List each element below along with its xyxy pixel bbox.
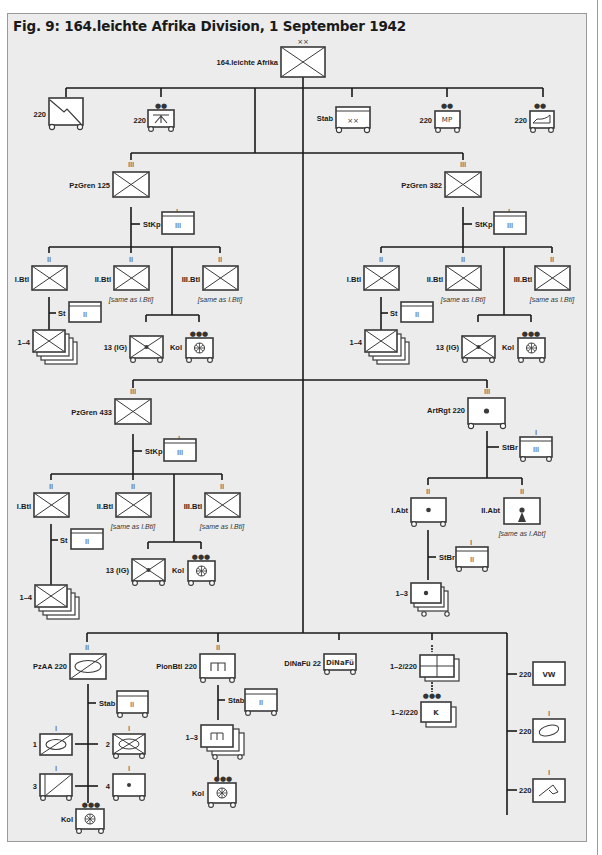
svg-text:III: III <box>175 222 181 230</box>
svg-text:PzAA 220: PzAA 220 <box>33 662 67 671</box>
pioneer-battalion: II PionBtl 220 Stab II 1–3 ●●● Kol <box>156 644 277 807</box>
svg-text:13 (IG): 13 (IG) <box>436 343 460 352</box>
svg-text:I.Abt: I.Abt <box>391 506 408 515</box>
svg-text:220: 220 <box>33 110 46 119</box>
svg-text:●●: ●● <box>155 102 167 110</box>
svg-text:III: III <box>130 388 136 396</box>
svg-text:II.Btl: II.Btl <box>427 275 443 284</box>
svg-text:StKp: StKp <box>475 220 493 229</box>
svg-text:I: I <box>548 769 550 777</box>
org-chart: ×× 164.leichte Afrika 220 ●● 220 ×× Stab… <box>0 0 602 855</box>
svg-text:PzGren 125: PzGren 125 <box>69 181 110 190</box>
svg-text:[same as I.Btl]: [same as I.Btl] <box>440 296 486 304</box>
svg-text:II: II <box>550 256 554 264</box>
svg-text:StBr: StBr <box>502 443 518 452</box>
svg-text:PionBtl 220: PionBtl 220 <box>156 662 197 671</box>
svg-text:Kol: Kol <box>502 343 514 352</box>
svg-text:II: II <box>379 256 383 264</box>
svg-text:II: II <box>85 644 89 652</box>
svg-text:4: 4 <box>106 782 111 791</box>
svg-text:[same as I.Btl]: [same as I.Btl] <box>529 296 575 304</box>
svg-text:1–4: 1–4 <box>349 338 362 347</box>
svg-text:II.Btl: II.Btl <box>97 502 113 511</box>
svg-text:●●●: ●●● <box>214 775 232 783</box>
svg-text:PzGren 433: PzGren 433 <box>71 408 112 417</box>
svg-text:1–4: 1–4 <box>17 338 30 347</box>
svg-text:●●●: ●●● <box>192 553 210 561</box>
recon-battalion: II PzAA 220 Stab II I 1 I 2 I 3 I <box>33 644 148 833</box>
svg-text:II: II <box>85 538 89 546</box>
svg-text:Stab: Stab <box>99 699 116 708</box>
cartography-platoon: ●● 220 <box>514 102 554 132</box>
svg-text:MP: MP <box>442 116 452 124</box>
svg-text:I: I <box>470 539 472 547</box>
svg-text:●●●: ●●● <box>423 692 441 700</box>
svg-text:220: 220 <box>519 727 532 736</box>
svg-text:III.Btl: III.Btl <box>182 275 200 284</box>
svg-text:II: II <box>49 483 53 491</box>
svg-text:I: I <box>128 725 130 733</box>
svg-text:StKp: StKp <box>145 447 163 456</box>
svg-text:ArtRgt 220: ArtRgt 220 <box>427 406 465 415</box>
svg-text:StKp: StKp <box>143 220 161 229</box>
svg-text:II.Abt: II.Abt <box>481 506 500 515</box>
svg-text:III: III <box>533 446 539 454</box>
svg-text:DiNaFü 22: DiNaFü 22 <box>284 659 321 668</box>
svg-text:1–4: 1–4 <box>19 593 32 602</box>
signals-commander: DiNaFü DiNaFü 22 <box>284 654 356 674</box>
supply-wheel-icon <box>527 343 537 353</box>
regiment-pzgren-125: III PzGren 125 StKp I III II I.Btl II II… <box>15 161 243 364</box>
svg-text:I.Btl: I.Btl <box>347 275 361 284</box>
svg-text:K: K <box>433 709 439 717</box>
svg-text:VW: VW <box>542 671 555 679</box>
svg-text:II: II <box>461 256 465 264</box>
svg-text:I: I <box>128 765 130 773</box>
aa-platoon: ●● 220 <box>133 102 174 131</box>
svg-text:3: 3 <box>33 782 37 791</box>
svg-text:StBr: StBr <box>439 553 455 562</box>
division-hq: ×× 164.leichte Afrika <box>217 38 325 77</box>
svg-text:I: I <box>548 710 550 718</box>
svg-text:220: 220 <box>519 670 532 679</box>
svg-text:164.leichte Afrika: 164.leichte Afrika <box>217 58 279 67</box>
svg-text:III.Btl: III.Btl <box>514 275 532 284</box>
svg-text:[same as I.Btl]: [same as I.Btl] <box>199 523 245 531</box>
svg-text:I: I <box>535 429 537 437</box>
svg-text:II: II <box>426 488 430 496</box>
svg-text:13 (IG): 13 (IG) <box>106 566 130 575</box>
svg-text:II: II <box>470 556 474 564</box>
svg-text:I.Btl: I.Btl <box>15 275 29 284</box>
svg-text:III: III <box>507 222 513 230</box>
svg-text:DiNaFü: DiNaFü <box>326 659 354 667</box>
svg-text:Kol: Kol <box>192 789 204 798</box>
svg-text:II.Btl: II.Btl <box>95 275 111 284</box>
svg-text:●●: ●● <box>534 102 546 110</box>
svg-text:1–2/220: 1–2/220 <box>391 708 418 717</box>
svg-text:●●●: ●●● <box>190 330 208 338</box>
svg-text:I: I <box>55 765 57 773</box>
svg-text:Stab: Stab <box>317 114 334 123</box>
svg-text:[same as I.Btl]: [same as I.Btl] <box>110 523 156 531</box>
supply-wheel-icon <box>85 814 95 824</box>
svg-text:Kol: Kol <box>172 566 184 575</box>
services: 220 VW 220 I 220 I <box>519 662 565 802</box>
svg-text:220: 220 <box>514 116 527 125</box>
svg-text:Kol: Kol <box>170 343 182 352</box>
regiment-pzgren-433: III PzGren 433 StKp I III II I.Btl II II… <box>17 388 245 619</box>
svg-text:[same as I.Btl]: [same as I.Btl] <box>108 296 154 304</box>
svg-text:1–3: 1–3 <box>185 733 198 742</box>
svg-text:II: II <box>259 699 263 707</box>
svg-text:13 (IG): 13 (IG) <box>104 343 128 352</box>
svg-text:PzGren 382: PzGren 382 <box>401 181 442 190</box>
mp-platoon: ●● MP 220 <box>419 102 460 132</box>
svg-text:Kol: Kol <box>61 815 73 824</box>
svg-text:220: 220 <box>519 786 532 795</box>
artillery-regiment: III ArtRgt 220 StBr I III II I.Abt II II… <box>391 388 552 616</box>
supply-wheel-icon <box>217 788 227 798</box>
svg-text:II: II <box>520 488 524 496</box>
svg-text:I.Btl: I.Btl <box>17 502 31 511</box>
svg-text:1–2/220: 1–2/220 <box>390 662 417 671</box>
supply-wheel-icon <box>197 566 207 576</box>
svg-text:II: II <box>131 483 135 491</box>
svg-text:St: St <box>390 309 398 318</box>
